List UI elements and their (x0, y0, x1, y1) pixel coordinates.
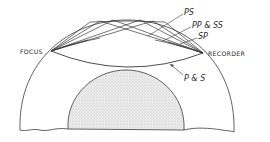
earth-cut-left (20, 129, 68, 131)
ray-p-s (51, 51, 203, 67)
label-ps: PS (184, 8, 194, 17)
pointer-sp (180, 38, 197, 44)
reflected-rays (51, 20, 203, 53)
label-sp: SP (198, 32, 208, 41)
earth-ray-diagram: FOCUS RECORDER PS PP & SS SP P & S (0, 0, 270, 142)
label-p-s: P & S (184, 74, 205, 83)
earth-core (68, 70, 184, 130)
label-recorder: RECORDER (208, 50, 245, 57)
label-focus: FOCUS (20, 48, 43, 55)
label-pp-ss: PP & SS (192, 21, 223, 30)
earth-cut-right (184, 128, 234, 132)
